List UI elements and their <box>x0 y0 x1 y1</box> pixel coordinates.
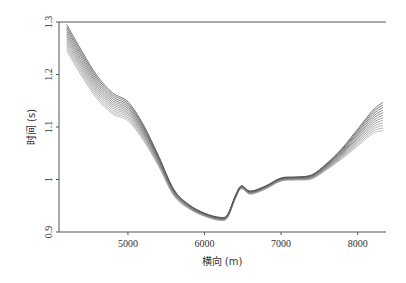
y-tick-label: 1.2 <box>43 68 54 81</box>
line-series <box>67 34 383 218</box>
line-series-group <box>67 25 383 221</box>
x-tick-label: 6000 <box>195 238 215 249</box>
line-series <box>67 37 383 219</box>
chart: 5000600070008000 0.911.11.21.3 横向 (m) 时间… <box>0 0 406 283</box>
x-tick-label: 8000 <box>348 238 368 249</box>
x-axis-label: 横向 (m) <box>202 255 243 267</box>
line-series <box>67 44 383 220</box>
line-series <box>67 32 383 219</box>
line-series <box>67 29 383 218</box>
line-series <box>67 27 383 218</box>
y-tick-label: 0.9 <box>43 226 54 239</box>
y-tick-label: 1 <box>43 177 54 182</box>
x-ticks: 5000600070008000 <box>118 232 368 249</box>
y-tick-label: 1.1 <box>43 121 54 134</box>
y-axis-label: 时间 (s) <box>25 109 37 145</box>
line-series <box>67 25 383 218</box>
y-ticks: 0.911.11.21.3 <box>43 16 59 239</box>
line-series <box>67 46 383 220</box>
line-series <box>67 41 383 219</box>
line-series <box>67 39 383 219</box>
y-tick-label: 1.3 <box>43 16 54 29</box>
line-series <box>67 51 383 221</box>
x-tick-label: 5000 <box>118 238 138 249</box>
line-series <box>67 49 383 221</box>
x-tick-label: 7000 <box>271 238 291 249</box>
